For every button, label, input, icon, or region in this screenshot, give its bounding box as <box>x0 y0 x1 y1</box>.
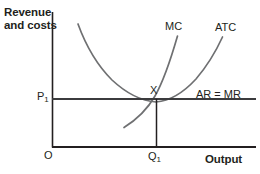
y-axis-title-line1: Revenue <box>4 6 51 18</box>
price-axis-label: P1 <box>37 90 49 103</box>
monopoly-cost-revenue-diagram: Revenueand costs Output MC ATC AR = MR P… <box>0 0 260 174</box>
mc-curve <box>124 36 178 128</box>
y-axis-title: Revenueand costs <box>4 6 57 32</box>
atc-curve-label: ATC <box>215 21 236 33</box>
intersection-point-label: X <box>150 84 157 96</box>
ar-mr-curve-label: AR = MR <box>196 88 241 100</box>
x-axis-title: Output <box>205 153 242 166</box>
price-subscript: 1 <box>44 95 48 104</box>
mc-curve-label: MC <box>165 20 182 32</box>
origin-label: O <box>44 149 53 161</box>
quantity-symbol: Q <box>148 150 157 162</box>
quantity-subscript: 1 <box>157 155 161 164</box>
quantity-axis-label: Q1 <box>148 150 161 163</box>
y-axis-title-line2: and costs <box>4 19 57 31</box>
